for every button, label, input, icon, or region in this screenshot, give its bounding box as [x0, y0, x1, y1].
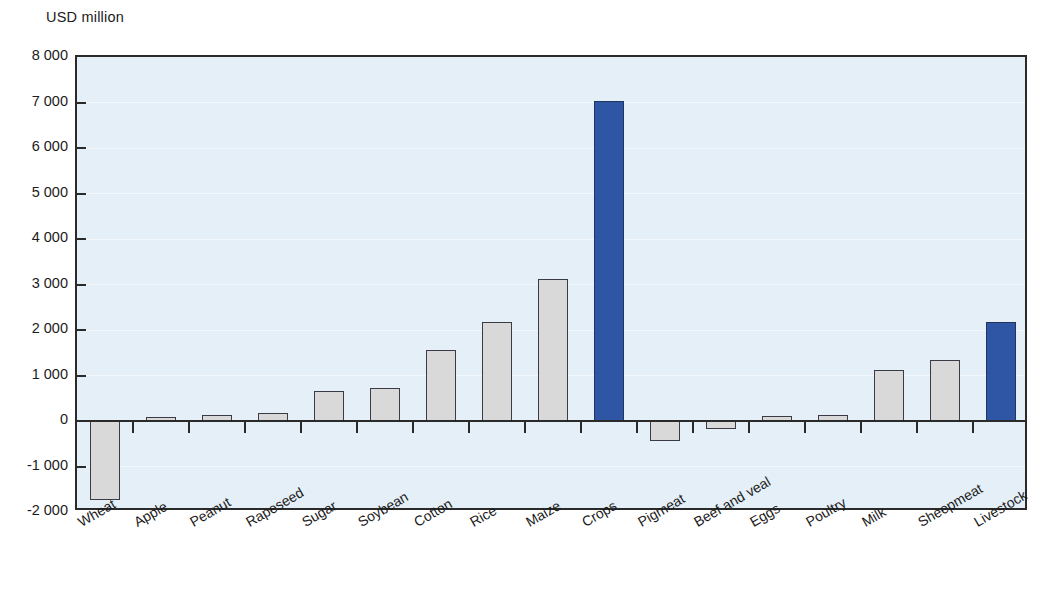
y-axis-tick — [77, 375, 86, 377]
y-axis-tick — [77, 147, 86, 149]
x-axis-tick — [692, 422, 694, 433]
y-axis-tick-label: 0 — [2, 411, 68, 427]
x-axis-tick — [804, 422, 806, 433]
gridline — [77, 466, 1025, 467]
bar-rice — [482, 322, 512, 421]
bar-milk — [874, 370, 904, 421]
x-axis-tick — [188, 422, 190, 433]
y-axis-tick — [77, 193, 86, 195]
x-axis-tick — [356, 422, 358, 433]
bar-maize — [538, 279, 568, 421]
x-axis-category-labels: WheatApplePeanutRapeseedSugarSoybeanCott… — [75, 510, 1027, 608]
y-axis-tick-label: 1 000 — [2, 366, 68, 382]
x-axis-tick — [524, 422, 526, 433]
x-axis-tick — [916, 422, 918, 433]
y-axis-tick-label: -1 000 — [2, 457, 68, 473]
bar-sheepmeat — [930, 360, 960, 421]
gridline — [77, 239, 1025, 240]
x-axis-tick — [860, 422, 862, 433]
y-axis-tick — [77, 102, 86, 104]
y-axis-tick-label: 5 000 — [2, 184, 68, 200]
y-axis-tick-label: 7 000 — [2, 93, 68, 109]
y-axis-tick-label: -2 000 — [2, 502, 68, 518]
y-axis-tick-label: 2 000 — [2, 320, 68, 336]
gridline — [77, 102, 1025, 103]
x-axis-tick — [412, 422, 414, 433]
bar-pigmeat — [650, 421, 680, 441]
gridline — [77, 193, 1025, 194]
x-axis-tick — [972, 422, 974, 433]
y-axis-tick-label: 4 000 — [2, 229, 68, 245]
y-axis-tick — [77, 238, 86, 240]
bar-cotton — [426, 350, 456, 421]
y-axis-tick-labels: 8 0007 0006 0005 0004 0003 0002 0001 000… — [0, 55, 68, 510]
y-axis-tick — [77, 466, 86, 468]
y-axis-tick-label: 8 000 — [2, 47, 68, 63]
bar-beef-and-veal — [706, 421, 736, 429]
bar-wheat — [90, 421, 120, 500]
x-axis-tick — [468, 422, 470, 433]
x-axis-tick — [580, 422, 582, 433]
x-axis-tick — [300, 422, 302, 433]
bar-chart-figure: USD million 8 0007 0006 0005 0004 0003 0… — [0, 0, 1038, 608]
zero-baseline — [77, 420, 1025, 422]
y-axis-tick — [77, 284, 86, 286]
bar-soybean — [370, 388, 400, 421]
y-axis-tick-label: 6 000 — [2, 138, 68, 154]
bar-sugar — [314, 391, 344, 421]
x-axis-tick — [132, 422, 134, 433]
bar-livestock — [986, 322, 1016, 421]
y-axis-unit-label: USD million — [46, 9, 124, 25]
y-axis-tick — [77, 329, 86, 331]
x-axis-tick — [244, 422, 246, 433]
y-axis-tick-label: 3 000 — [2, 275, 68, 291]
x-axis-tick — [748, 422, 750, 433]
x-axis-tick — [636, 422, 638, 433]
bar-crops — [594, 101, 624, 421]
plot-area — [75, 55, 1027, 510]
gridline — [77, 148, 1025, 149]
